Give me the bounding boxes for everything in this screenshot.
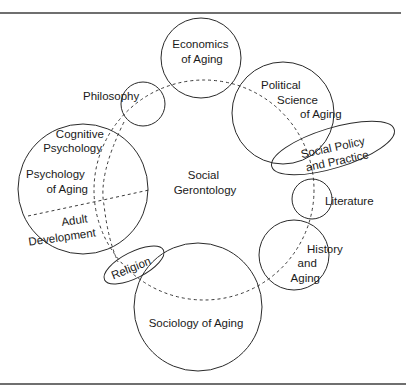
adult-development-label: Adult Development — [26, 211, 98, 247]
sociology-label: Sociology of Aging — [149, 317, 244, 329]
economics-label: Economics of Aging — [172, 38, 231, 65]
political-science-label: Political Science of Aging — [261, 79, 342, 120]
religion-label: Religion — [109, 255, 152, 282]
literature-label: Literature — [325, 195, 374, 207]
sociology-circle — [134, 243, 262, 371]
history-label: History and Aging — [291, 243, 346, 284]
center-label: Social Gerontology — [174, 169, 237, 196]
psychology-vertical-divider — [103, 122, 124, 262]
philosophy-circle — [121, 82, 165, 126]
psychology-label: Psychology of Aging — [26, 168, 88, 195]
philosophy-label: Philosophy — [83, 90, 140, 102]
social-gerontology-diagram: Social Gerontology Economics of Aging Ph… — [0, 0, 414, 389]
